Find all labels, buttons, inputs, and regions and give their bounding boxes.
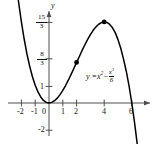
figure-graph-of-cubic: y 15 3 8 3 1 -2 -2 -1 0 1 2 4 6 y =x2−x3… bbox=[0, 0, 158, 144]
x-tick-label-1: 1 bbox=[61, 108, 65, 116]
y-tick-label-1: 1 bbox=[40, 83, 44, 91]
data-point-marker bbox=[74, 60, 79, 65]
y-axis bbox=[47, 11, 52, 136]
y-tick-label-16-over-3: 15 3 bbox=[36, 14, 47, 31]
x-tick-label-0: 0 bbox=[42, 108, 46, 116]
y-tick-label-neg2: -2 bbox=[38, 126, 45, 134]
equation-fraction: x36 bbox=[109, 69, 114, 84]
plot-canvas bbox=[0, 0, 158, 144]
x-tick-label-4: 4 bbox=[102, 108, 106, 116]
equation-fraction-denominator: 6 bbox=[110, 76, 114, 84]
equation-annotation: y =x2−x36 bbox=[86, 69, 114, 84]
x-axis bbox=[8, 101, 150, 106]
y-tick-label-8-over-3: 8 3 bbox=[37, 51, 47, 68]
x-tick-label-6: 6 bbox=[129, 108, 133, 116]
x-tick-label-neg2: -2 bbox=[17, 108, 24, 116]
y-axis-name: y bbox=[51, 2, 55, 10]
equation-lhs: y = bbox=[86, 72, 97, 81]
curve-path bbox=[14, 0, 140, 144]
data-point-marker bbox=[102, 20, 107, 25]
x-tick-label-neg1: -1 bbox=[31, 108, 38, 116]
x-tick-label-2: 2 bbox=[74, 108, 78, 116]
equation-fraction-numerator-exponent: 3 bbox=[112, 67, 114, 72]
